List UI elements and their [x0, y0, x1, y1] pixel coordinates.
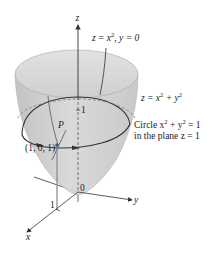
paraboloid-diagram: z y x 0 1 1 P (1, 0, 1) z = x2, y = 0 z … [0, 0, 212, 255]
trace-equation-label: z = x2, y = 0 [91, 31, 139, 43]
surface-equation-label: z = x2 + y2 [140, 91, 182, 103]
y-axis-label: y [133, 195, 139, 205]
circle-label-line2: in the plane z = 1 [134, 131, 200, 141]
y-axis [78, 192, 132, 200]
x-axis-label: x [25, 232, 31, 242]
point-coords-label: (1, 0, 1) [25, 143, 55, 154]
point-p-label: P [57, 120, 64, 130]
x-axis [27, 192, 78, 232]
point-p [55, 143, 59, 147]
x-tick-label: 1 [50, 200, 55, 210]
circle-label-line1: Circle x2 + y2 = 1 [134, 118, 201, 130]
z-axis-label: z [75, 13, 80, 23]
origin-label: 0 [80, 183, 85, 193]
top-rim [15, 50, 138, 98]
z-tick-label: 1 [81, 105, 86, 115]
